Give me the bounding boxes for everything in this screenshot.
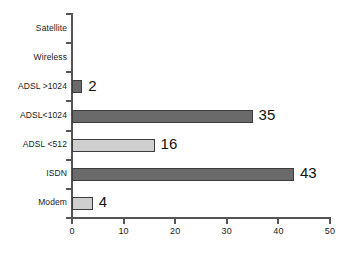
category-label-adsl-1024: ADSL<1024 [20,110,67,120]
category-label-wireless: Wireless [34,52,67,62]
bar-modem [72,197,93,210]
category-label-modem: Modem [38,197,67,207]
x-axis-tick-label: 0 [57,226,87,236]
bar-isdn [72,168,294,181]
bar-value-label: 35 [259,106,276,123]
category-label-satellite: Satellite [36,23,67,33]
bar-chart: 01020304050 SatelliteWirelessADSL >1024A… [0,0,349,257]
x-axis-tick-label: 50 [315,226,345,236]
x-axis-tick-label: 10 [109,226,139,236]
x-axis-tick [226,219,228,224]
bar-value-label: 43 [300,164,317,181]
bar-value-label: 16 [161,135,178,152]
bar-adsl-512 [72,139,155,152]
bar-adsl-1024 [72,80,82,93]
x-axis-tick [174,219,176,224]
x-axis-tick-label: 20 [160,226,190,236]
plot-area: 23516434 [72,14,330,218]
x-axis-tick-label: 30 [212,226,242,236]
category-label-adsl-512: ADSL <512 [23,139,67,149]
bar-value-label: 4 [99,193,107,210]
x-axis-tick [123,219,125,224]
x-axis-tick-label: 40 [263,226,293,236]
bar-adsl-1024 [72,110,253,123]
x-axis-tick [71,219,73,224]
bar-value-label: 2 [88,77,96,94]
x-axis-tick [329,219,331,224]
x-axis-tick [277,219,279,224]
category-label-isdn: ISDN [46,168,67,178]
category-label-adsl-1024: ADSL >1024 [18,81,67,91]
